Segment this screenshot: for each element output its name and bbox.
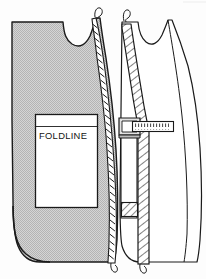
tape-graduations — [135, 124, 169, 130]
pattern-figure: FOLDLINE — [0, 0, 206, 279]
foldline-box-rect — [36, 115, 98, 208]
facing-band-lower — [138, 126, 149, 264]
tape-clamp-shadow — [119, 135, 140, 138]
thread-loop-icon — [111, 263, 118, 272]
hatched-corner-tab — [122, 203, 138, 217]
pattern-illustration: FOLDLINE — [0, 0, 206, 279]
thread-loop-icon — [140, 264, 147, 273]
thread-loop-icon — [123, 10, 130, 22]
right-pattern-piece — [119, 10, 202, 273]
foldline-label: FOLDLINE — [39, 130, 87, 141]
foldline-label-box: FOLDLINE — [36, 115, 98, 208]
